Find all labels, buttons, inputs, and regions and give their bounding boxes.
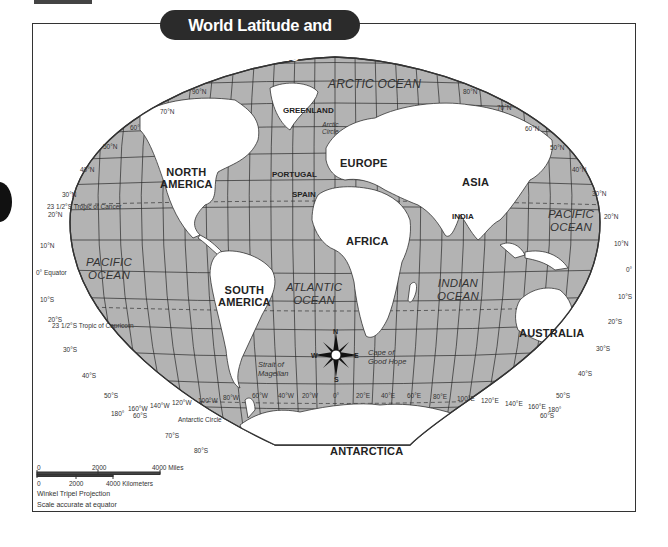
lat-left-40n: 40°N [80, 166, 95, 173]
lon-80e: 80°E [433, 393, 447, 400]
lat-left-50n: 50°N [103, 143, 118, 150]
scale-miles-0: 0 [37, 464, 41, 471]
lon-40w: 40°W [278, 392, 294, 399]
label-pacific-ocean-west: PACIFIC OCEAN [86, 256, 132, 282]
lon-160w: 160°W [128, 405, 148, 412]
map-title: World Latitude and Longitude [160, 10, 360, 40]
label-cape-of-good-hope: Cape of Good Hope [368, 348, 406, 366]
label-antarctic-circle: Antarctic Circle [178, 416, 222, 423]
lon-60w: 60°W [252, 392, 268, 399]
lon-40e: 40°E [381, 392, 395, 399]
label-indian-ocean: INDIAN OCEAN [437, 277, 479, 303]
label-south-america: SOUTH AMERICA [218, 284, 271, 308]
lat-left-60: 60° [130, 124, 140, 131]
scale-bar [37, 470, 160, 479]
lat-right-20n: 20°N [604, 213, 619, 220]
scale-km-4000: 4000 Kilometers [106, 480, 153, 487]
lat-right-10s: 10°S [618, 293, 632, 300]
lat-left-80s: 80°S [194, 447, 208, 454]
lat-left-40s: 40°S [82, 372, 96, 379]
lon-120w: 120°W [172, 399, 192, 406]
lon-180w: 180° [111, 410, 124, 417]
label-pacific-ocean-east: PACIFIC OCEAN [548, 208, 594, 234]
label-europe: EUROPE [340, 157, 388, 169]
lon-100e: 100°E [457, 395, 475, 402]
scale-miles-2000: 2000 [92, 464, 106, 471]
lat-left-20n: 20°N [48, 211, 63, 218]
lon-100w: 100°W [198, 397, 218, 404]
lat-left-30s: 30°S [63, 346, 77, 353]
label-arctic-ocean: ARCTIC OCEAN [328, 78, 421, 91]
label-equator: 0° Equator [36, 269, 67, 276]
label-asia: ASIA [462, 176, 489, 188]
lat-left-60s: 60°S [133, 412, 147, 419]
label-tropic-of-capricorn: 23 1/2°S Tropic of Capricorn [52, 322, 134, 329]
label-atlantic-ocean: ATLANTIC OCEAN [286, 281, 342, 307]
lat-right-50s: 50°S [556, 392, 570, 399]
lon-60e: 60°E [407, 392, 421, 399]
lon-140e: 140°E [505, 400, 523, 407]
lon-20w: 20°W [302, 392, 318, 399]
label-greenland: GREENLAND [283, 106, 334, 115]
lat-right-40n: 40°N [572, 166, 587, 173]
land-antarctica [240, 404, 480, 450]
lat-right-30s: 30°S [596, 345, 610, 352]
lat-right-30n: 30°N [592, 190, 607, 197]
lat-right-50n: 50°N [550, 144, 565, 151]
compass-w: W [311, 352, 318, 359]
scale-note: Scale accurate at equator [37, 501, 117, 508]
lon-180e: 180° [548, 406, 561, 413]
label-australia: AUSTRALIA [519, 327, 584, 339]
label-africa: AFRICA [346, 235, 389, 247]
lat-left-10n: 10°N [40, 242, 55, 249]
label-spain: SPAIN [292, 190, 316, 199]
label-strait-of-magellan: Strait of Magellan [258, 360, 288, 378]
lon-0: 0° [333, 392, 339, 399]
label-arctic-circle: Arctic Circle [322, 121, 339, 135]
scale-km-0: 0 [37, 480, 41, 487]
lon-140w: 140°W [150, 402, 170, 409]
lat-left-10s: 10°S [40, 296, 54, 303]
lat-left-30n: 30°N [62, 191, 77, 198]
lat-right-20s: 20°S [608, 318, 622, 325]
lat-left-20s: 20°S [48, 316, 62, 323]
lat-left-50s: 50°S [104, 392, 118, 399]
lat-left-70n: 70°N [160, 108, 175, 115]
lat-right-40s: 40°S [578, 370, 592, 377]
label-portugal: PORTUGAL [272, 170, 317, 179]
label-north-america: NORTH AMERICA [160, 166, 213, 190]
label-tropic-of-cancer: 23 1/2°S Tropic of Cancer [47, 203, 122, 210]
compass-e: E [354, 352, 359, 359]
lat-right-0: 0° [626, 266, 632, 273]
lon-160e: 160°E [528, 403, 546, 410]
label-india: INDIA [452, 212, 474, 221]
projection-note: Winkel Tripel Projection [37, 490, 110, 497]
lat-left-90n: 90°N [192, 88, 207, 95]
lat-right-80n: 80°N [463, 88, 478, 95]
lat-right-70n: 70°N [497, 104, 512, 111]
lon-20e: 20°E [356, 392, 370, 399]
lat-left-70s: 70°S [165, 432, 179, 439]
lon-120e: 120°E [481, 397, 499, 404]
compass-n: N [333, 328, 338, 335]
label-antarctica: ANTARCTICA [330, 445, 403, 457]
compass-s: S [334, 376, 339, 383]
lat-right-10n: 10°N [614, 240, 629, 247]
lat-right-60n: 60°N [525, 125, 540, 132]
lat-right-60s: 60°S [540, 412, 554, 419]
lon-80w: 80°W [223, 394, 239, 401]
scale-km-2000: 2000 [69, 480, 83, 487]
scale-miles-4000: 4000 Miles [152, 464, 183, 471]
